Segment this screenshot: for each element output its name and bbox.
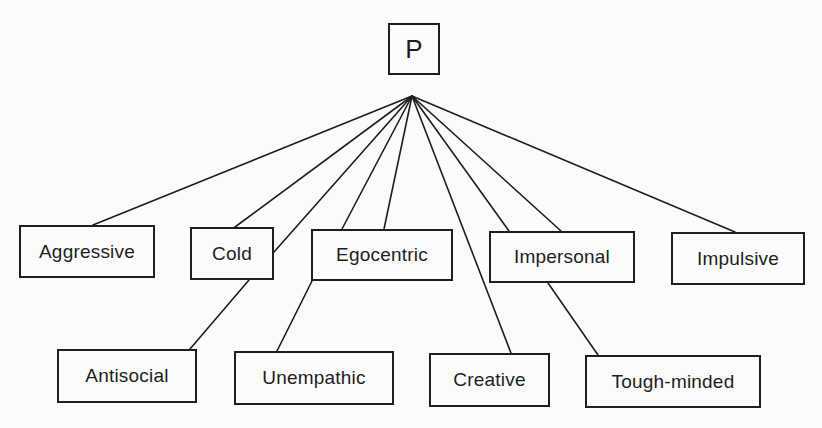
edge-p-aggressive	[93, 96, 412, 225]
node-label-unempathic: Unempathic	[262, 367, 365, 389]
node-label-cold: Cold	[212, 243, 252, 265]
node-unempathic: Unempathic	[234, 351, 394, 405]
node-label-impersonal: Impersonal	[514, 246, 610, 268]
node-label-aggressive: Aggressive	[39, 241, 135, 263]
edge-p-cold	[235, 96, 412, 227]
edge-p-egocentric	[384, 96, 412, 229]
node-antisocial: Antisocial	[57, 349, 197, 403]
node-creative: Creative	[429, 353, 550, 407]
trait-hierarchy-diagram: P Aggressive Cold Egocentric Impersonal …	[0, 0, 822, 428]
node-label-egocentric: Egocentric	[336, 244, 428, 266]
node-label-tough-minded: Tough-minded	[612, 371, 735, 393]
node-tough-minded: Tough-minded	[585, 355, 761, 408]
node-impulsive: Impulsive	[671, 232, 805, 285]
edge-p-creative	[412, 96, 511, 353]
node-label-p: P	[405, 34, 423, 65]
node-label-antisocial: Antisocial	[85, 365, 168, 387]
node-egocentric: Egocentric	[311, 229, 453, 281]
edge-p-impersonal	[412, 96, 561, 231]
node-impersonal: Impersonal	[489, 231, 635, 283]
node-p: P	[388, 23, 440, 75]
node-label-creative: Creative	[453, 369, 525, 391]
edge-impersonal-tough-minded	[548, 283, 598, 355]
node-aggressive: Aggressive	[19, 225, 155, 278]
root-stem	[412, 75, 414, 96]
edge-cold-antisocial	[190, 280, 249, 349]
node-label-impulsive: Impulsive	[697, 248, 779, 270]
edge-egocentric-unempathic	[277, 281, 312, 351]
node-cold: Cold	[190, 227, 274, 280]
